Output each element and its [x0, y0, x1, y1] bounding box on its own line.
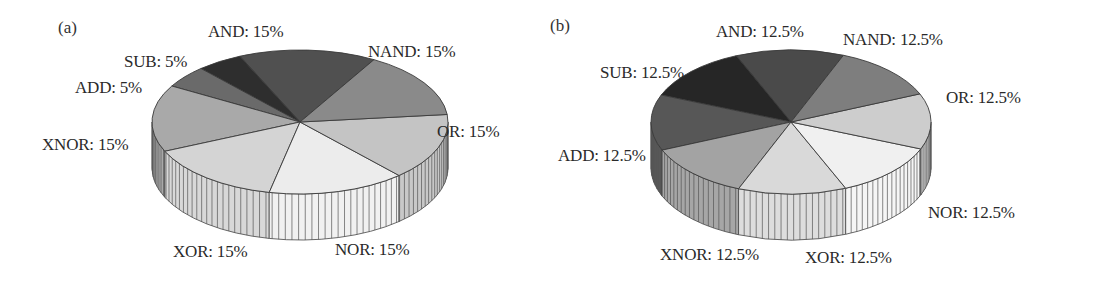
- panel-label-a: (a): [58, 18, 77, 38]
- slice-label-sub: SUB: 5%: [124, 52, 187, 72]
- pie-side-xor: [739, 188, 846, 240]
- pie-chart-a: (a) AND: 15%SUB: 5%ADD: 5%XNOR: 15%XOR: …: [0, 0, 550, 296]
- slice-label-nand: NAND: 12.5%: [843, 30, 943, 50]
- slice-label-xnor: XNOR: 12.5%: [660, 245, 759, 265]
- slice-label-xor: XOR: 15%: [173, 242, 247, 262]
- slice-label-nor: NOR: 12.5%: [928, 203, 1015, 223]
- slice-label-nand: NAND: 15%: [368, 42, 455, 62]
- slice-label-or: OR: 15%: [437, 122, 499, 142]
- pie-chart-b: (b) AND: 12.5%SUB: 12.5%ADD: 12.5%XNOR: …: [550, 0, 1103, 296]
- slice-label-add: ADD: 5%: [75, 78, 142, 98]
- slice-label-and: AND: 15%: [208, 22, 283, 42]
- slice-label-sub: SUB: 12.5%: [600, 63, 684, 83]
- slice-label-xnor: XNOR: 15%: [42, 135, 129, 155]
- panel-label-b: (b): [550, 16, 570, 36]
- slice-label-xor: XOR: 12.5%: [805, 248, 892, 268]
- slice-label-and: AND: 12.5%: [716, 22, 804, 42]
- slice-label-nor: NOR: 15%: [335, 240, 409, 260]
- slice-label-or: OR: 12.5%: [946, 88, 1021, 108]
- slice-label-add: ADD: 12.5%: [558, 146, 646, 166]
